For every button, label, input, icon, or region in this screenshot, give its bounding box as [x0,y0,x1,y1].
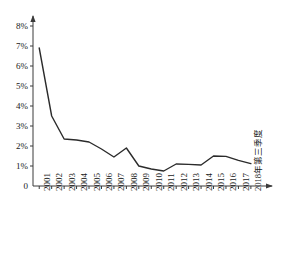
x-axis-tick-label: 2006 [105,173,114,191]
x-axis-tick-label: 2010 [155,173,164,191]
x-axis-tick-label: 2012 [180,173,189,191]
x-axis-tick-label: 2007 [117,173,126,191]
x-axis-tick-label: 2005 [93,173,102,191]
x-axis-tick-label: 2017 [242,173,251,191]
x-axis-tick-label: 2013 [192,173,201,191]
x-axis-tick-label: 2003 [68,173,77,191]
chart-axes [30,15,273,189]
x-axis-arrow [266,183,273,188]
x-axis-tick-label: 2011 [167,173,176,191]
chart-tick-marks [30,26,251,189]
y-axis-tick-label: 0 [24,182,29,191]
x-axis-tick-label: 2009 [142,173,151,191]
y-axis-tick-label: 7% [16,42,28,51]
data-series-line [39,48,251,171]
chart-plot-area [0,0,286,266]
y-axis-tick-label: 6% [16,62,28,71]
x-axis-tick-label: 2002 [55,173,64,191]
y-axis-arrow [30,15,35,22]
y-axis-tick-label: 8% [16,22,28,31]
y-axis-tick-label: 3% [16,122,28,131]
x-axis-tick-label: 2018年第三季度 [254,129,263,191]
x-axis-tick-label: 2014 [205,173,214,191]
x-axis-tick-label: 2016 [229,173,238,191]
y-axis-tick-label: 2% [16,142,28,151]
y-axis-tick-label: 5% [16,82,28,91]
y-axis-tick-label: 4% [16,102,28,111]
y-axis-tick-label: 1% [16,162,28,171]
line-chart: 8%7%6%5%4%3%2%1%0 2001200220032004200520… [0,0,286,266]
x-axis-tick-label: 2004 [80,173,89,191]
x-axis-tick-label: 2008 [130,173,139,191]
x-axis-tick-label: 2001 [43,173,52,191]
x-axis-tick-label: 2015 [217,173,226,191]
